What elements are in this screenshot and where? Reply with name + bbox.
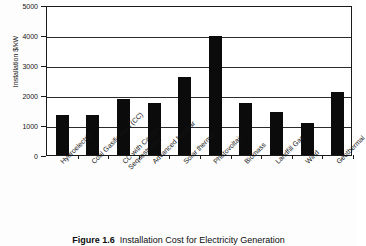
y-axis-tick-label: 4000 — [22, 33, 38, 40]
x-axis-tick-mark — [353, 155, 354, 159]
figure-caption-label: Figure 1.6 — [72, 235, 115, 245]
bar — [178, 77, 191, 155]
bar — [239, 103, 252, 156]
y-axis-tick-label: 2000 — [22, 93, 38, 100]
y-axis-tick-labels: 500040003000200010000 — [0, 0, 46, 162]
y-axis-tick-label: 5000 — [22, 3, 38, 10]
bar-series — [47, 7, 351, 155]
bar — [331, 92, 344, 155]
y-axis-tick-label: 0 — [34, 153, 38, 160]
bar — [270, 112, 283, 155]
figure-caption: Figure 1.6 Installation Cost for Electri… — [0, 235, 357, 246]
plot-area — [46, 6, 352, 156]
bar — [56, 115, 69, 155]
y-axis-tick-label: 3000 — [22, 63, 38, 70]
figure-caption-text: Installation Cost for Electricity Genera… — [120, 235, 285, 245]
x-axis-category-labels: HydroelectricCoal Gasification (CC)CC wi… — [46, 158, 352, 230]
y-axis-tick-label: 1000 — [22, 123, 38, 130]
